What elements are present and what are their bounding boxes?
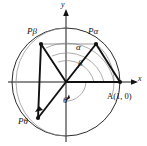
dot-p-theta	[36, 116, 40, 120]
chord-pbeta-origin	[41, 44, 66, 82]
point-label-p-alpha: Pα	[88, 27, 98, 36]
dot-a	[118, 80, 122, 84]
point-label-p-theta: Pθ	[18, 117, 28, 126]
dot-p-beta	[39, 42, 43, 46]
chord-origin-ptheta	[38, 82, 66, 118]
point-label-a: A(1, 0)	[107, 92, 132, 101]
unit-circle-figure: y x Pβ Pα Pθ A(1, 0) α β θ	[0, 0, 147, 146]
y-axis-label: y	[61, 1, 65, 9]
y-axis	[63, 9, 69, 142]
point-label-p-beta: Pβ	[27, 27, 37, 36]
angle-label-beta: β	[78, 59, 82, 68]
x-axis-label: x	[138, 75, 142, 83]
angle-label-alpha: α	[76, 43, 81, 52]
x-axis-arrowhead	[131, 79, 138, 85]
y-axis-arrowhead	[63, 9, 69, 16]
bold-chords	[35, 44, 120, 118]
point-markers	[36, 42, 122, 120]
dot-p-alpha	[94, 42, 98, 46]
angle-label-theta: θ	[63, 96, 67, 105]
